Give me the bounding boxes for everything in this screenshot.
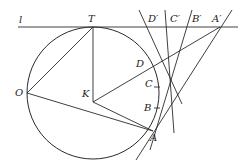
segment-TO <box>27 27 93 93</box>
label-O: O <box>15 87 23 98</box>
line-KA-prime <box>93 27 220 102</box>
geometry-diagram: l T O K A B C D A′ B′ C′ D′ <box>0 0 248 167</box>
label-B: B <box>143 102 151 113</box>
line-DD-prime <box>139 10 182 104</box>
label-A: A <box>149 132 157 143</box>
line-CC-prime <box>165 10 174 133</box>
label-T: T <box>88 13 96 24</box>
label-B-prime: B′ <box>191 13 202 24</box>
label-D-prime: D′ <box>147 13 159 24</box>
label-l: l <box>19 14 22 25</box>
label-D: D <box>135 58 144 69</box>
label-K: K <box>81 88 90 99</box>
segment-OA <box>27 93 153 131</box>
label-A-prime: A′ <box>211 13 222 24</box>
label-C: C <box>145 78 153 89</box>
label-C-prime: C′ <box>170 13 181 24</box>
